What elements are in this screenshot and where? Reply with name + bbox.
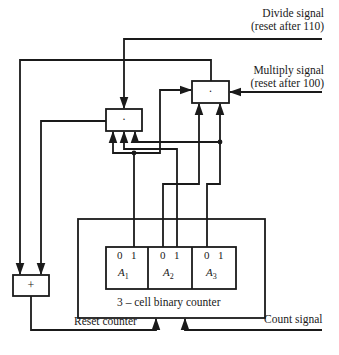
and-divide-output-wire [41,121,106,274]
and-multiply-symbol: · [192,84,229,99]
a3-name: A3 [206,266,217,281]
a3-bit0: 0 [204,249,210,261]
a3-letter: A [206,266,213,278]
a2-name: A2 [163,266,174,281]
junction-dot-a3 [218,140,223,145]
a2-bit1: 1 [174,249,180,261]
a3-to-and-divide [135,132,220,142]
count-signal-label: Count signal [264,313,322,326]
a3-bit1: 1 [218,249,224,261]
divide-signal-title: Divide signal [251,7,324,20]
divide-signal-note: (reset after 110) [251,20,324,33]
a1-name: A1 [118,266,129,281]
a2-zero-wire [163,104,199,247]
multiply-signal-title: Multiply signal [251,64,324,77]
a2-sub: 2 [170,272,174,281]
a2-one-wire [124,132,177,247]
and-multiply-output-wire [20,60,211,274]
a2-letter: A [163,266,170,278]
a3-sub: 3 [213,272,217,281]
multiply-signal-note: (reset after 100) [251,77,324,90]
multiply-signal-label: Multiply signal (reset after 100) [251,64,324,90]
junction-dot-a1 [132,151,137,156]
a1-bit1: 1 [131,249,137,261]
a1-bit0: 0 [117,249,123,261]
a3-zero-wire [207,104,220,247]
and-divide-symbol: · [106,112,142,127]
divide-signal-label: Divide signal (reset after 110) [251,7,324,33]
reset-counter-label: Reset counter [74,315,137,328]
a1-letter: A [118,266,125,278]
or-reset-symbol: + [13,278,49,293]
a2-bit0: 0 [160,249,166,261]
counter-label: 3 – cell binary counter [117,296,220,309]
a1-sub: 1 [125,272,129,281]
